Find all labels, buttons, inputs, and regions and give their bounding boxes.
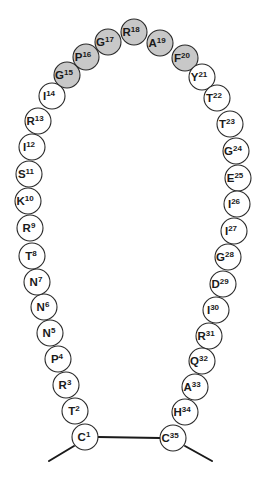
residue-a19: A19: [147, 30, 173, 56]
residue-letter: A: [148, 37, 156, 49]
residue-letter: C: [78, 431, 86, 443]
residue-number: 11: [26, 167, 35, 176]
residue-letter: G: [216, 251, 225, 263]
residue-number: 8: [32, 249, 37, 258]
residue-number: 9: [31, 221, 36, 230]
residue-s11: S11: [16, 161, 42, 187]
residue-number: 12: [26, 140, 35, 149]
residue-r31: R31: [196, 323, 222, 349]
disulfide-bond: [98, 437, 160, 438]
residue-p4: P4: [45, 346, 71, 372]
residue-number: 15: [64, 68, 73, 77]
residue-g17: G17: [95, 29, 121, 55]
n-terminal-tail: [49, 446, 74, 461]
residue-letter: G: [224, 145, 233, 157]
residue-number: 7: [38, 275, 43, 284]
residue-h34: H34: [172, 399, 198, 425]
residue-letter: T: [219, 118, 226, 130]
residue-number: 2: [75, 404, 80, 413]
residue-letter: F: [174, 52, 181, 64]
residue-number: 32: [199, 354, 208, 363]
residue-number: 10: [25, 194, 34, 203]
residue-number: 27: [228, 224, 237, 233]
residue-t22: T22: [204, 85, 230, 111]
residue-number: 26: [231, 197, 240, 206]
c-terminal-tail: [185, 446, 212, 461]
residue-number: 33: [192, 380, 201, 389]
residue-number: 22: [213, 91, 222, 100]
residue-n5: N5: [37, 320, 63, 346]
residue-c1: C1: [72, 424, 98, 450]
residue-t8: T8: [19, 243, 45, 269]
residue-letter: N: [30, 276, 38, 288]
residue-r3: R3: [53, 372, 79, 398]
residue-q32: Q32: [189, 348, 215, 374]
residue-number: 5: [51, 326, 56, 335]
residue-letter: G: [96, 36, 105, 48]
residue-k10: K10: [15, 188, 41, 214]
residue-letter: H: [173, 406, 181, 418]
residue-number: 31: [206, 329, 215, 338]
residue-letter: N: [37, 301, 45, 313]
residue-r9: R9: [17, 215, 43, 241]
residue-n6: N6: [31, 294, 57, 320]
residue-e25: E25: [225, 165, 251, 191]
residue-letter: T: [25, 250, 32, 262]
residue-letter: Q: [190, 355, 199, 367]
residue-number: 16: [82, 50, 91, 59]
residue-r13: R13: [25, 108, 51, 134]
residue-g24: G24: [223, 138, 249, 164]
residue-number: 35: [170, 431, 179, 440]
residue-i30: I30: [203, 297, 229, 323]
residue-number: 23: [226, 117, 235, 126]
residue-t23: T23: [217, 111, 243, 137]
peptide-loop-diagram: C1T2R3P4N5N6N7T8R9K10S11I12R13I14G15P16G…: [0, 0, 259, 477]
residue-number: 30: [210, 303, 219, 312]
residue-letter: T: [206, 92, 213, 104]
residue-number: 24: [233, 144, 242, 153]
residues-layer: C1T2R3P4N5N6N7T8R9K10S11I12R13I14G15P16G…: [15, 19, 251, 451]
residue-number: 17: [105, 35, 114, 44]
residue-number: 14: [46, 89, 55, 98]
residue-number: 4: [59, 352, 64, 361]
residue-n7: N7: [24, 269, 50, 295]
residue-number: 25: [234, 171, 243, 180]
residue-r18: R18: [121, 19, 147, 45]
residue-number: 34: [182, 405, 191, 414]
residue-number: 21: [198, 70, 207, 79]
residue-number: 3: [67, 378, 72, 387]
residue-number: 28: [225, 250, 234, 259]
residue-number: 1: [86, 430, 91, 439]
residue-number: 6: [45, 300, 50, 309]
residue-letter: C: [161, 432, 169, 444]
residue-number: 19: [157, 36, 166, 45]
residue-letter: T: [68, 405, 75, 417]
residue-c35: C35: [160, 425, 186, 451]
residue-letter: N: [43, 327, 51, 339]
residue-letter: G: [55, 69, 64, 81]
residue-i26: I26: [224, 191, 250, 217]
residue-i12: I12: [19, 134, 45, 160]
residue-letter: D: [211, 278, 219, 290]
residue-number: 13: [35, 114, 44, 123]
residue-number: 20: [181, 51, 190, 60]
residue-number: 29: [220, 277, 229, 286]
residue-i27: I27: [221, 218, 247, 244]
residue-d29: D29: [210, 271, 236, 297]
residue-t2: T2: [62, 398, 88, 424]
residue-letter: A: [183, 381, 191, 393]
residue-number: 18: [131, 25, 140, 34]
residue-a33: A33: [182, 374, 208, 400]
residue-g28: G28: [215, 244, 241, 270]
